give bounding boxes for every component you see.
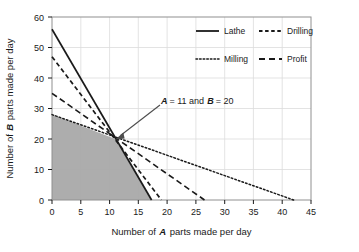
x-tick-label: 35 — [248, 207, 258, 217]
y-tick-label: 30 — [34, 104, 44, 114]
x-axis-title-var: A — [158, 226, 166, 237]
y-tick-label: 40 — [34, 74, 44, 84]
annotation-var-a: A — [160, 96, 168, 106]
y-tick-labels: 0 10 20 30 40 50 60 — [34, 13, 44, 206]
y-tick-label: 60 — [34, 13, 44, 23]
x-axis-title-part2: parts made per day — [170, 226, 252, 237]
x-tick-label: 20 — [162, 207, 172, 217]
x-tick-label: 40 — [277, 207, 287, 217]
linear-programming-chart: A= 11 andB= 20 0 5 10 15 20 25 30 35 40 — [0, 0, 359, 252]
x-tick-marks — [52, 200, 311, 204]
legend-label-profit: Profit — [287, 54, 307, 64]
legend-label-drilling: Drilling — [287, 26, 313, 36]
x-tick-labels: 0 5 10 15 20 25 30 35 40 45 — [49, 207, 316, 217]
x-tick-label: 30 — [220, 207, 230, 217]
y-axis-title-part1: Number of — [4, 134, 15, 179]
x-tick-label: 0 — [49, 207, 54, 217]
x-axis-title: Number ofAparts made per day — [111, 226, 251, 237]
y-axis-title-var: B — [4, 124, 15, 131]
y-tick-label: 10 — [34, 165, 44, 175]
annotation-eq1: = 11 and — [170, 96, 205, 106]
annotation-optimum-text: A= 11 andB= 20 — [160, 96, 233, 106]
x-tick-label: 15 — [133, 207, 143, 217]
x-tick-label: 10 — [105, 207, 115, 217]
annotation-var-b: B — [207, 96, 214, 106]
x-axis-title-part1: Number of — [111, 226, 156, 237]
y-tick-label: 20 — [34, 135, 44, 145]
y-tick-label: 50 — [34, 43, 44, 53]
x-tick-label: 45 — [306, 207, 316, 217]
legend-label-milling: Milling — [224, 54, 248, 64]
annotation-eq2: = 20 — [216, 96, 234, 106]
chart-figure: A= 11 andB= 20 0 5 10 15 20 25 30 35 40 — [0, 0, 359, 252]
y-axis-title-part2: parts made per day — [4, 38, 15, 120]
y-tick-marks — [48, 17, 52, 200]
y-axis-title: Number ofBparts made per day — [4, 38, 15, 178]
legend-label-lathe: Lathe — [224, 26, 246, 36]
y-tick-label: 0 — [39, 196, 44, 206]
x-tick-label: 5 — [78, 207, 83, 217]
x-tick-label: 25 — [191, 207, 201, 217]
